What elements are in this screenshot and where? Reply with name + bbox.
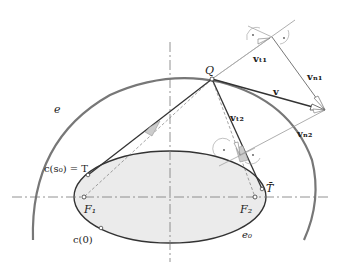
right-angle-arc-1	[247, 27, 260, 40]
label-c0: c(0)	[73, 234, 93, 245]
right-angle-arc-3	[213, 138, 230, 156]
right-angle-arc-2	[280, 30, 289, 44]
line-perp1	[248, 26, 272, 37]
label-vt2: vₜ₂	[229, 112, 244, 123]
arrowhead-vt1	[258, 38, 270, 44]
label-e0: e₀	[242, 229, 252, 240]
label-v: v	[272, 86, 280, 97]
label-e: e	[54, 103, 61, 116]
point-c0	[99, 226, 103, 230]
point-Tbar	[260, 187, 264, 191]
right-angle-dot-3	[223, 149, 225, 151]
label-vn2: vₙ₂	[296, 128, 312, 139]
label-F2: F₂	[239, 203, 252, 216]
velocity-v	[212, 79, 320, 109]
point-F2	[253, 195, 257, 199]
focal-ellipse-diagram: Q e e₀ F₁ F₂ T̄ c(s₀) = T c(0) v vₜ₁ vₙ₁…	[0, 0, 340, 268]
label-c-s0-T: c(s₀) = T	[44, 163, 88, 174]
point-F1	[82, 195, 86, 199]
right-angle-dot-1	[252, 34, 254, 36]
label-vn1: vₙ₁	[306, 71, 322, 82]
label-F1: F₁	[83, 203, 96, 216]
label-Q: Q	[205, 64, 214, 77]
label-vt1: vₜ₁	[252, 53, 267, 64]
label-Tbar: T̄	[266, 182, 275, 195]
point-Q	[210, 77, 214, 81]
arrowhead-vt2	[234, 142, 240, 155]
right-angle-dot-4	[252, 154, 254, 156]
right-angle-dot-2	[283, 37, 285, 39]
